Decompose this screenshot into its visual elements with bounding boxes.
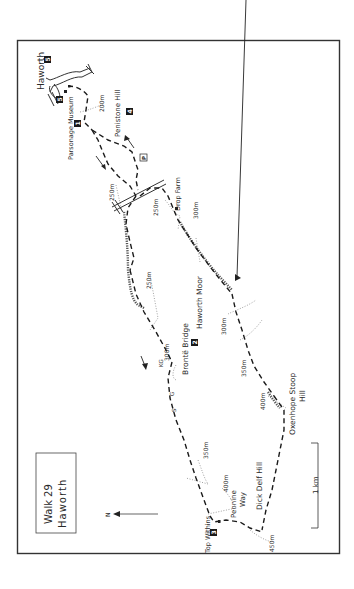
contour-300m-b: 300m — [220, 318, 227, 335]
svg-text:5: 5 — [44, 57, 51, 61]
svg-text:1: 1 — [74, 121, 81, 125]
contour-250m-c: 250m — [145, 272, 152, 289]
contour-300m-c: 300m — [163, 344, 170, 361]
waypoint-5b: 5 — [56, 96, 63, 103]
title-place: Haworth — [57, 479, 68, 528]
walk-map: Walk 29 Haworth N 1 km Haworth 5 5 1 Par… — [0, 0, 354, 589]
contour-350m-b: 350m — [202, 442, 209, 459]
contour-400m-b: 400m — [222, 475, 229, 492]
label-haworth-moor: Haworth Moor — [195, 275, 204, 329]
gate-kg: KG — [158, 359, 164, 367]
parking-marker: P — [140, 154, 147, 161]
svg-text:2: 2 — [191, 340, 198, 344]
ruin-marker — [218, 520, 221, 523]
waypoint-4: 4 — [126, 108, 133, 115]
contour-250m-a: 250m — [108, 184, 115, 201]
contour-400m-a: 400m — [259, 393, 266, 410]
waypoint-1: 1 — [74, 120, 81, 127]
scale-label: 1 km — [312, 476, 320, 494]
gate-g: G — [169, 392, 175, 396]
north-label: N — [104, 513, 111, 518]
svg-text:4: 4 — [126, 109, 133, 113]
map-frame — [18, 41, 340, 554]
gate-s: S — [171, 408, 177, 412]
label-oxenhope-stoop: Oxenhope Stoop — [288, 373, 297, 435]
label-drop-farm: Drop Farm — [174, 177, 182, 211]
label-parsonage-museum: Parsonage Museum — [67, 96, 75, 160]
contour-200m: 200m — [98, 95, 105, 112]
contour-450m: 450m — [268, 535, 275, 552]
svg-text:5: 5 — [56, 97, 63, 101]
waypoint-5a: 5 — [44, 56, 51, 63]
parking-icon: P — [141, 156, 147, 160]
label-pennine-way-1: Pennine — [230, 490, 238, 518]
waypoint-2: 2 — [191, 339, 198, 346]
title-walk-number: Walk 29 — [43, 484, 54, 524]
museum-marker — [64, 90, 67, 93]
label-dick-delf-hill: Dick Delf Hill — [255, 462, 264, 510]
contour-300m-a: 300m — [192, 202, 199, 219]
contour-250m-b: 250m — [152, 199, 159, 216]
label-top-withins: Top Withins — [204, 515, 212, 554]
label-pennine-way-2: Way — [239, 492, 247, 507]
label-bronte-bridge: Brontë Bridge — [181, 323, 190, 375]
label-penistone-hill: Penistone Hill — [114, 90, 122, 137]
label-oxenhope-hill: Hill — [298, 390, 307, 402]
contour-350m-a: 350m — [240, 360, 247, 377]
